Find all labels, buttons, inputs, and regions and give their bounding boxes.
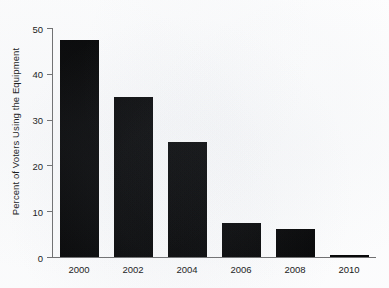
x-axis-tick-label: 2000 bbox=[68, 264, 89, 275]
y-axis-tick-label: 50 bbox=[32, 23, 43, 34]
x-axis-line bbox=[52, 257, 376, 258]
y-axis-tick-label: 10 bbox=[32, 206, 43, 217]
y-axis-title: Percent of Voters Using the Equipment bbox=[6, 0, 26, 262]
y-axis-tick: 50 bbox=[47, 28, 52, 29]
bar bbox=[60, 40, 99, 257]
bar bbox=[330, 255, 369, 257]
bar bbox=[168, 142, 207, 257]
plot-area: 01020304050 200020022004200620082010 bbox=[52, 20, 376, 258]
x-axis-tick-label: 2002 bbox=[122, 264, 143, 275]
bar bbox=[276, 229, 315, 257]
y-axis-tick: 30 bbox=[47, 120, 52, 121]
x-axis-tick-label: 2006 bbox=[230, 264, 251, 275]
x-axis-tick-label: 2008 bbox=[284, 264, 305, 275]
y-axis-tick: 40 bbox=[47, 74, 52, 75]
bar-chart-figure: Percent of Voters Using the Equipment 01… bbox=[0, 0, 389, 288]
x-axis-tick-label: 2010 bbox=[338, 264, 359, 275]
y-axis-tick: 10 bbox=[47, 211, 52, 212]
y-axis-tick-label: 40 bbox=[32, 69, 43, 80]
bar bbox=[114, 97, 153, 257]
y-axis-tick-label: 30 bbox=[32, 115, 43, 126]
y-axis-line bbox=[52, 28, 53, 258]
y-axis-tick: 20 bbox=[47, 165, 52, 166]
y-axis-tick-label: 20 bbox=[32, 160, 43, 171]
bar bbox=[222, 223, 261, 257]
y-axis-tick-label: 0 bbox=[38, 252, 43, 263]
y-axis-tick: 0 bbox=[47, 257, 52, 258]
y-axis-title-label: Percent of Voters Using the Equipment bbox=[11, 47, 22, 214]
x-axis-tick-label: 2004 bbox=[176, 264, 197, 275]
